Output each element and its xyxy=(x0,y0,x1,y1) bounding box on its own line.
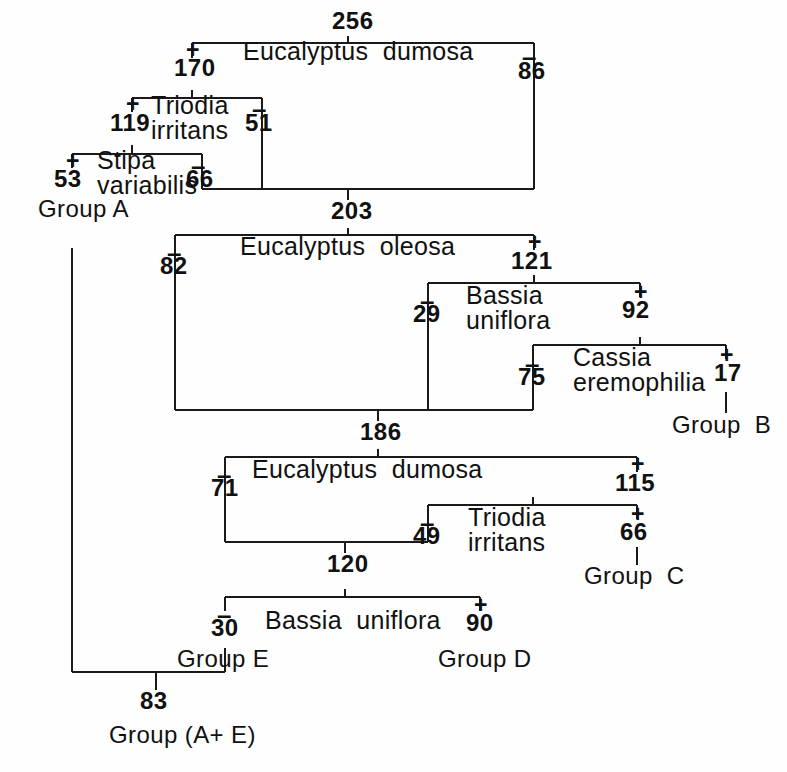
species-bassia-uniflora-bottom: Bassia uniflora xyxy=(265,607,441,633)
node-value-115: 115 xyxy=(615,470,655,495)
node-value-49: 49 xyxy=(413,523,441,548)
species-line-2: eremophilia xyxy=(573,368,706,396)
group-label-ae: Group (A+ E) xyxy=(109,722,256,747)
node-value-53: 53 xyxy=(54,166,82,191)
species-eucalyptus-oleosa: Eucalyptus oleosa xyxy=(240,233,455,259)
node-value-71: 71 xyxy=(211,475,239,500)
node-value-121: 121 xyxy=(511,248,553,273)
node-value-256: 256 xyxy=(332,8,374,33)
species-triodia-irritans-top: Triodiairritans xyxy=(151,93,229,142)
node-value-66-c: 66 xyxy=(620,519,648,544)
species-triodia-irritans-mid: Triodiairritans xyxy=(468,505,546,554)
node-value-66-top: 66 xyxy=(186,166,214,191)
species-cassia-eremophilia: Cassiaeremophilia xyxy=(573,345,706,394)
node-value-170: 170 xyxy=(174,55,216,80)
node-value-90: 90 xyxy=(466,610,494,635)
node-value-203: 203 xyxy=(331,198,373,223)
node-value-186: 186 xyxy=(360,419,402,444)
group-label-c: Group C xyxy=(584,563,685,588)
node-value-86: 86 xyxy=(518,58,546,83)
node-value-92: 92 xyxy=(622,297,650,322)
species-eucalyptus-dumosa-mid: Eucalyptus dumosa xyxy=(252,456,483,482)
species-line-2: irritans xyxy=(468,528,545,556)
node-value-83: 83 xyxy=(140,688,168,713)
node-value-30: 30 xyxy=(211,615,239,640)
group-label-d: Group D xyxy=(438,646,532,671)
node-value-51: 51 xyxy=(245,110,273,135)
species-stipa-variabilis: Stipavariabilis xyxy=(97,148,197,197)
node-value-119: 119 xyxy=(110,110,150,135)
species-bassia-uniflora-top: Bassiauniflora xyxy=(466,283,550,332)
group-label-e: Group E xyxy=(177,646,269,671)
dendrogram-figure: 256 + 170 Eucalyptus dumosa – 86 + 119 T… xyxy=(0,0,787,772)
node-value-82: 82 xyxy=(160,253,188,278)
group-label-a: Group A xyxy=(38,196,129,221)
species-line-2: irritans xyxy=(151,116,228,144)
species-line-2: uniflora xyxy=(466,306,550,334)
node-value-120: 120 xyxy=(327,551,369,576)
group-label-b: Group B xyxy=(672,412,771,437)
node-value-75: 75 xyxy=(518,364,546,389)
node-value-17: 17 xyxy=(714,360,742,385)
species-eucalyptus-dumosa-top: Eucalyptus dumosa xyxy=(243,38,474,64)
node-value-29: 29 xyxy=(413,301,441,326)
